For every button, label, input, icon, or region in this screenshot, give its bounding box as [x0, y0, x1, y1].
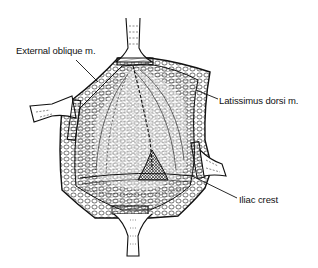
- label-iliac-crest: Iliac crest: [239, 195, 278, 205]
- label-latissimus-dorsi: Latissimus dorsi m.: [219, 96, 298, 106]
- top-retractor: [116, 18, 153, 65]
- left-retractor: [30, 96, 81, 140]
- right-retractor: [191, 142, 226, 179]
- anatomical-figure: External oblique m. Latissimus dorsi m. …: [0, 0, 318, 268]
- external-oblique-leader: [76, 60, 98, 82]
- label-external-oblique: External oblique m.: [16, 46, 95, 56]
- bottom-retractor: [112, 206, 152, 256]
- dissection-illustration: [0, 0, 318, 268]
